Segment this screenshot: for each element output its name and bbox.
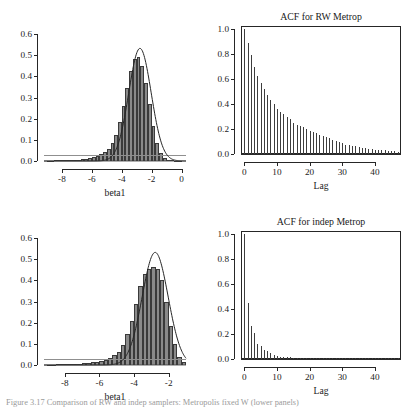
x-tick-label: 0	[230, 167, 258, 177]
x-tick	[244, 162, 245, 166]
acf-spike	[310, 131, 311, 154]
x-tick-label: -6	[85, 378, 113, 388]
acf-zero-line	[241, 359, 401, 360]
panel-hist-indep: 0.00.10.20.30.40.50.6-8-6-4-2beta1	[0, 218, 205, 404]
acf-spike	[316, 133, 317, 154]
acf-spike	[303, 127, 304, 154]
acf-spike	[306, 129, 307, 154]
y-tick-label: 0.6	[201, 279, 229, 289]
acf-spike	[339, 142, 340, 154]
acf-spike	[270, 100, 271, 154]
x-tick-label: -6	[78, 174, 106, 184]
panel-title: ACF for RW Metrop	[211, 11, 411, 22]
acf-spike	[267, 351, 268, 359]
acf-spike	[323, 136, 324, 154]
x-axis-title: beta1	[34, 187, 196, 198]
x-tick-label: 30	[328, 167, 356, 177]
y-tick	[231, 309, 234, 310]
x-tick	[310, 162, 311, 166]
acf-spike	[283, 114, 284, 154]
x-tick	[62, 169, 63, 173]
panel-title: ACF for indep Metrop	[211, 216, 411, 227]
acf-spike	[280, 112, 281, 154]
acf-spike	[257, 76, 258, 154]
y-axis	[234, 29, 235, 154]
x-tick-label: -4	[120, 378, 148, 388]
acf-spike	[267, 95, 268, 154]
panel-acf-rw: 0.00.20.40.60.81.0010203040LagACF for RW…	[205, 0, 411, 200]
panel-acf-indep: 0.00.20.40.60.81.0010203040LagACF for in…	[205, 205, 411, 405]
acf-spike	[244, 29, 245, 154]
plot-border	[241, 231, 401, 359]
x-tick-label: 40	[361, 372, 389, 382]
x-tick	[169, 373, 170, 377]
x-tick	[310, 367, 311, 371]
y-tick	[231, 234, 234, 235]
x-tick-label: 20	[296, 372, 324, 382]
y-tick	[231, 154, 234, 155]
x-tick	[99, 373, 100, 377]
acf-spike	[332, 140, 333, 154]
acf-spike	[319, 135, 320, 154]
acf-spike	[290, 119, 291, 154]
figure-panel-grid: 0.00.10.20.30.40.50.6-8-6-4-20beta1 0.00…	[0, 0, 411, 414]
y-tick	[231, 334, 234, 335]
acf-spike	[254, 333, 255, 359]
acf-spike	[293, 123, 294, 154]
y-tick-label: 0.4	[201, 99, 229, 109]
acf-spike	[355, 146, 356, 154]
x-tick	[152, 169, 153, 173]
figure-caption: Figure 3.17 Comparison of RW and indep s…	[6, 398, 406, 408]
acf-spike	[349, 145, 350, 154]
acf-spike	[287, 117, 288, 154]
x-tick	[375, 162, 376, 166]
y-tick	[231, 259, 234, 260]
acf-spike	[254, 67, 255, 154]
x-tick-label: 0	[168, 174, 196, 184]
x-tick-label: 10	[263, 167, 291, 177]
acf-spike	[300, 126, 301, 154]
x-tick	[277, 367, 278, 371]
acf-spike	[277, 109, 278, 154]
acf-spike	[264, 350, 265, 359]
y-tick-label: 0.6	[201, 74, 229, 84]
y-tick-label: 0.2	[201, 329, 229, 339]
plot-border	[241, 26, 401, 154]
x-tick	[65, 373, 66, 377]
acf-spike	[313, 132, 314, 154]
acf-spike	[359, 147, 360, 154]
acf-spike	[274, 104, 275, 154]
y-tick	[231, 129, 234, 130]
acf-spike	[248, 303, 249, 359]
acf-spike	[329, 138, 330, 154]
x-axis-title: Lag	[231, 385, 411, 396]
y-tick	[231, 359, 234, 360]
acf-spike	[336, 141, 337, 154]
x-tick-label: 10	[263, 372, 291, 382]
x-tick	[122, 169, 123, 173]
y-axis	[234, 234, 235, 359]
x-tick	[244, 367, 245, 371]
x-tick	[277, 162, 278, 166]
x-tick	[134, 373, 135, 377]
x-tick	[342, 367, 343, 371]
y-tick-label: 0.0	[201, 354, 229, 364]
acf-spike	[342, 143, 343, 154]
x-tick-label: -4	[108, 174, 136, 184]
y-tick-label: 0.4	[201, 304, 229, 314]
x-axis-title: Lag	[231, 180, 411, 191]
x-tick-label: -2	[155, 378, 183, 388]
y-tick-label: 1.0	[201, 24, 229, 34]
y-tick	[231, 284, 234, 285]
acf-spike	[352, 146, 353, 154]
panel-hist-rw: 0.00.10.20.30.40.50.6-8-6-4-20beta1	[0, 14, 205, 200]
x-tick-label: 0	[230, 372, 258, 382]
y-tick-label: 0.0	[201, 149, 229, 159]
x-tick-label: 30	[328, 372, 356, 382]
y-tick	[231, 79, 234, 80]
y-tick-label: 1.0	[201, 229, 229, 239]
y-tick	[231, 29, 234, 30]
acf-spike	[244, 234, 245, 359]
acf-spike	[251, 326, 252, 359]
acf-spike	[257, 344, 258, 359]
